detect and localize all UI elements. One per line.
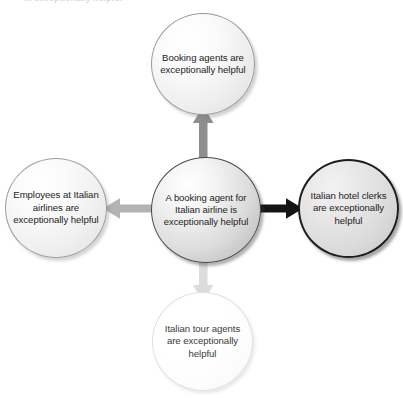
node-top-booking-agents[interactable]: Booking agents are exceptionally helpful — [151, 13, 255, 115]
node-bottom-tour-agents[interactable]: Italian tour agents are exceptionally he… — [152, 292, 253, 391]
node-top-label: Booking agents are exceptionally helpful — [152, 52, 254, 77]
node-center-hub[interactable]: A booking agent for Italian airline is e… — [151, 157, 261, 263]
node-bottom-label: Italian tour agents are exceptionally he… — [153, 323, 252, 360]
node-center-label: A booking agent for Italian airline is e… — [152, 192, 260, 229]
arrow-left-icon — [103, 198, 152, 219]
node-right-hotel-clerks[interactable]: Italian hotel clerks are exceptionally h… — [298, 159, 399, 258]
node-left-airline-employees[interactable]: Employees at Italian airlines are except… — [5, 158, 107, 258]
node-right-label: Italian hotel clerks are exceptionally h… — [300, 190, 397, 227]
arrow-right-icon — [256, 198, 303, 219]
node-left-label: Employees at Italian airlines are except… — [6, 189, 106, 226]
radial-diagram: ... exceptionally helpful Booking agents… — [0, 0, 403, 398]
